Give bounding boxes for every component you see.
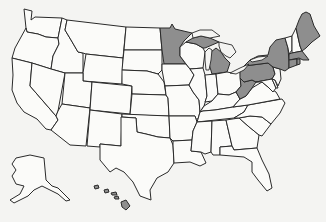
state-connecticut[interactable] <box>289 59 297 68</box>
state-kansas[interactable] <box>130 94 169 116</box>
state-hawaii[interactable] <box>94 185 130 210</box>
state-colorado[interactable] <box>90 82 132 114</box>
state-florida[interactable] <box>220 146 272 191</box>
state-north-dakota[interactable] <box>124 27 162 50</box>
state-wyoming[interactable] <box>83 54 123 84</box>
us-states-map <box>0 0 326 222</box>
state-maine[interactable] <box>296 12 320 51</box>
state-alaska[interactable] <box>10 155 70 203</box>
state-rhode-island[interactable] <box>297 59 300 65</box>
lake-superior <box>192 30 220 38</box>
state-new-mexico[interactable] <box>87 110 122 147</box>
